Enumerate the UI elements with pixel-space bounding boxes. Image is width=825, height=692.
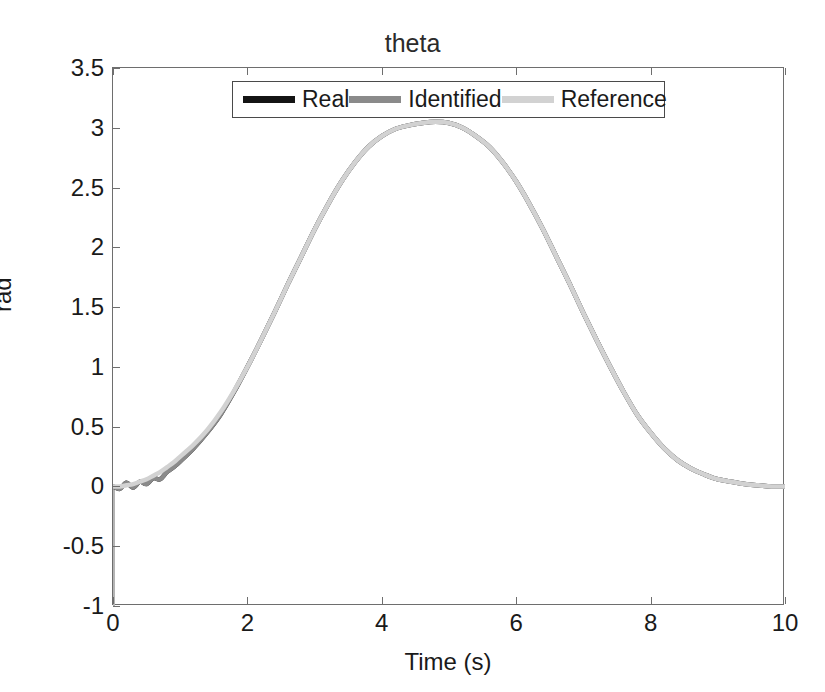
plot-canvas [113,68,785,606]
x-tick-mark-top [247,68,248,75]
y-tick-mark [113,307,120,308]
chart-legend: Real Identified Reference [232,81,665,118]
legend-label-reference: Reference [561,87,667,112]
x-tick-label: 0 [106,610,119,636]
x-tick-mark [516,597,517,604]
y-tick-label: 1 [91,355,104,379]
x-tick-label: 2 [241,610,254,636]
x-tick-mark-top [516,68,517,75]
plot-area: -1-0.500.511.522.533.50246810 [112,67,784,605]
chart-title: theta [0,28,825,58]
y-tick-mark [113,128,120,129]
x-tick-mark-top [113,68,114,75]
x-axis-label: Time (s) [112,648,784,676]
y-axis-label: rad [0,277,15,312]
y-tick-mark [113,367,120,368]
x-tick-mark [651,597,652,604]
y-tick-label: 0.5 [71,415,104,439]
x-tick-mark-top [785,68,786,75]
y-tick-label: 3.5 [71,56,104,80]
y-tick-label: 1.5 [71,295,104,319]
legend-swatch-identified [349,96,401,103]
legend-swatch-real [243,96,295,103]
chart-figure: theta -1-0.500.511.522.533.50246810 rad … [0,0,825,692]
series-line-identified [113,122,785,489]
y-tick-mark [113,188,120,189]
y-tick-label: 2.5 [71,176,104,200]
legend-label-real: Real [302,87,349,112]
y-tick-mark [113,606,120,607]
y-tick-mark [113,247,120,248]
y-tick-mark [113,68,120,69]
y-tick-label: -0.5 [63,534,104,558]
y-tick-mark [113,427,120,428]
y-tick-label: 3 [91,116,104,140]
series-line-real [113,122,785,489]
x-tick-mark-top [382,68,383,75]
x-tick-label: 10 [772,610,799,636]
legend-item-real: Real [243,87,349,112]
series-line-reference [113,122,785,487]
y-tick-label: 2 [91,235,104,259]
y-tick-label: 0 [91,474,104,498]
y-tick-mark [113,546,120,547]
x-tick-mark [113,597,114,604]
legend-swatch-reference [502,96,554,103]
legend-label-identified: Identified [408,87,501,112]
legend-item-reference: Reference [502,87,667,112]
x-tick-label: 4 [375,610,388,636]
x-tick-label: 8 [644,610,657,636]
legend-item-identified: Identified [349,87,501,112]
x-tick-label: 6 [510,610,523,636]
x-tick-mark [382,597,383,604]
y-tick-label: -1 [83,594,104,618]
x-tick-mark-top [651,68,652,75]
y-tick-mark [113,486,120,487]
x-tick-mark [247,597,248,604]
x-tick-mark [785,597,786,604]
